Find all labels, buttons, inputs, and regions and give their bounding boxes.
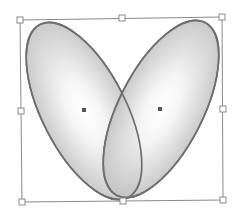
handle-bottom-left[interactable] <box>19 199 25 205</box>
handle-top-middle[interactable] <box>119 15 125 21</box>
handle-bottom-right[interactable] <box>220 197 226 203</box>
right-center-marker[interactable] <box>158 107 162 111</box>
handle-middle-left[interactable] <box>18 108 24 114</box>
handle-bottom-middle[interactable] <box>120 198 126 204</box>
drawing-canvas[interactable] <box>0 0 237 217</box>
left-center-marker[interactable] <box>82 108 86 112</box>
handle-top-left[interactable] <box>17 17 23 23</box>
handle-middle-right[interactable] <box>220 106 226 112</box>
handle-top-right[interactable] <box>219 14 225 20</box>
